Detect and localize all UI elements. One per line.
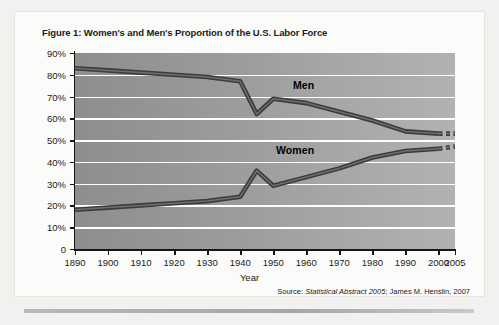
x-tick-label-2005: 2005 <box>444 257 465 268</box>
y-tick-40 <box>70 162 74 163</box>
y-tick-60 <box>70 118 74 119</box>
x-tick-label-1940: 1940 <box>230 257 251 268</box>
y-axis-line <box>74 51 76 251</box>
x-tick-label-1920: 1920 <box>164 257 185 268</box>
series-path-highlight-women <box>75 149 439 210</box>
series-lines <box>75 53 455 249</box>
y-tick-10 <box>70 227 74 228</box>
x-tick-label-1890: 1890 <box>64 257 85 268</box>
y-tick-70 <box>70 97 74 98</box>
y-tick-label-30: 30% <box>26 178 66 189</box>
x-axis-line <box>74 249 456 251</box>
x-tick-1940 <box>240 250 241 255</box>
x-tick-label-1910: 1910 <box>131 257 152 268</box>
x-tick-label-1930: 1930 <box>197 257 218 268</box>
series-path-women <box>75 149 439 210</box>
x-tick-label-1900: 1900 <box>97 257 118 268</box>
y-tick-label-40: 40% <box>26 156 66 167</box>
x-tick-label-1970: 1970 <box>329 257 350 268</box>
source-prefix: Source: <box>277 287 303 296</box>
source-note: Source: Statistical Abstract 2005; James… <box>0 287 470 296</box>
x-tick-1930 <box>207 250 208 255</box>
y-tick-label-70: 70% <box>26 91 66 102</box>
y-tick-label-90: 90% <box>26 48 66 59</box>
y-tick-label-50: 50% <box>26 135 66 146</box>
x-tick-label-1950: 1950 <box>263 257 284 268</box>
bottom-rule <box>24 309 474 313</box>
y-tick-30 <box>70 184 74 185</box>
x-tick-1970 <box>339 250 340 255</box>
x-tick-1990 <box>405 250 406 255</box>
x-axis-title: Year <box>0 272 499 283</box>
y-tick-label-0: 0 <box>26 244 66 255</box>
source-title: Statistical Abstract 2005 <box>305 287 385 296</box>
x-tick-2005 <box>455 250 456 255</box>
x-tick-label-1960: 1960 <box>296 257 317 268</box>
y-tick-label-80: 80% <box>26 69 66 80</box>
x-tick-1920 <box>174 250 175 255</box>
x-tick-1890 <box>75 250 76 255</box>
y-tick-20 <box>70 205 74 206</box>
y-tick-label-60: 60% <box>26 113 66 124</box>
x-tick-2000 <box>438 250 439 255</box>
y-tick-50 <box>70 140 74 141</box>
y-tick-0 <box>70 249 74 250</box>
series-label-women: Women <box>276 144 314 156</box>
x-tick-label-1990: 1990 <box>395 257 416 268</box>
x-tick-1900 <box>108 250 109 255</box>
y-tick-90 <box>70 53 74 54</box>
x-tick-1980 <box>372 250 373 255</box>
figure-title: Figure 1: Women's and Men's Proportion o… <box>42 27 327 38</box>
series-path-highlight-men <box>75 68 439 133</box>
y-tick-label-10: 10% <box>26 222 66 233</box>
y-tick-label-20: 20% <box>26 200 66 211</box>
source-rest: ; James M. Henslin, 2007 <box>385 287 470 296</box>
x-tick-1960 <box>306 250 307 255</box>
x-tick-1910 <box>141 250 142 255</box>
y-tick-80 <box>70 75 74 76</box>
x-tick-label-1980: 1980 <box>362 257 383 268</box>
series-label-men: Men <box>293 79 314 91</box>
x-tick-1950 <box>273 250 274 255</box>
